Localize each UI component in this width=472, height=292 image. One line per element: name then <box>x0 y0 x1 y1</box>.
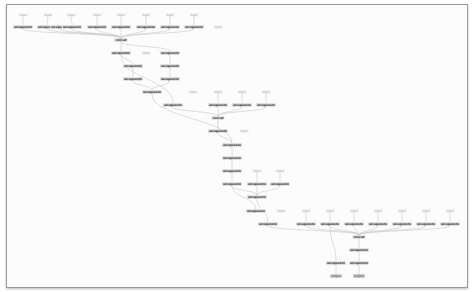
input-node[interactable]: input <box>421 209 431 213</box>
op-node[interactable]: unsqueeze <box>344 222 364 226</box>
op-node[interactable]: unsqueeze <box>184 25 204 29</box>
op-node[interactable]: unsqueeze <box>222 169 242 173</box>
op-node[interactable]: unsqueeze <box>160 64 180 68</box>
graph-edge <box>218 133 232 143</box>
op-node[interactable]: unsqueeze <box>222 143 242 147</box>
graph-edge <box>121 29 170 38</box>
op-node[interactable]: unsqueeze <box>258 222 278 226</box>
graph-edge <box>133 81 152 90</box>
graph-edge <box>121 42 170 51</box>
op-node[interactable]: unsqueeze <box>246 209 266 213</box>
op-node[interactable]: unsqueeze <box>142 90 162 94</box>
op-node[interactable]: unsqueeze <box>123 64 143 68</box>
input-node[interactable]: input <box>43 13 53 17</box>
op-node[interactable]: unsqueeze <box>270 182 290 186</box>
op-node[interactable]: concat <box>352 235 365 239</box>
op-node[interactable]: unsqueeze <box>111 51 131 55</box>
input-node[interactable]: input <box>141 51 151 55</box>
input-node[interactable]: input <box>373 209 383 213</box>
input-node[interactable]: input <box>141 13 151 17</box>
input-node[interactable]: input <box>445 209 455 213</box>
input-node[interactable]: input <box>188 90 198 94</box>
input-node[interactable]: input <box>92 13 102 17</box>
graph-edge <box>359 226 450 235</box>
input-node[interactable]: input <box>276 209 286 213</box>
graph-edge <box>71 17 72 25</box>
op-node[interactable]: unsqueeze <box>232 103 252 107</box>
op-node[interactable]: unsqueeze <box>208 129 228 133</box>
op-node[interactable]: concat <box>114 38 127 42</box>
output-node[interactable]: output <box>330 274 342 278</box>
graph-edge <box>152 81 170 90</box>
input-node[interactable]: input <box>237 90 247 94</box>
input-node[interactable]: input <box>275 169 285 173</box>
op-node[interactable]: unsqueeze <box>440 222 460 226</box>
op-node[interactable]: unsqueeze <box>296 222 316 226</box>
graph-edge <box>218 107 242 116</box>
op-node[interactable]: unsqueeze <box>256 103 276 107</box>
input-node[interactable]: input <box>325 209 335 213</box>
op-node[interactable]: unsqueeze <box>62 25 82 29</box>
input-node[interactable]: input <box>213 25 223 29</box>
graph-edge <box>218 107 266 116</box>
op-node[interactable]: unsqueeze <box>392 222 412 226</box>
op-node[interactable]: unsqueeze <box>247 182 267 186</box>
op-node[interactable]: unsqueeze <box>349 261 369 265</box>
op-node[interactable]: unsqueeze <box>326 261 346 265</box>
op-node[interactable]: unsqueeze <box>13 25 33 29</box>
input-node[interactable]: input <box>301 209 311 213</box>
input-node[interactable]: input <box>116 13 126 17</box>
op-node[interactable]: unsqueeze <box>111 25 131 29</box>
graph-edge <box>47 17 48 25</box>
input-node[interactable]: input <box>397 209 407 213</box>
op-node[interactable]: unsqueeze <box>136 25 156 29</box>
graph-edge <box>257 186 280 195</box>
input-node[interactable]: input <box>239 129 249 133</box>
input-node[interactable]: input <box>66 13 76 17</box>
op-node[interactable]: unsqueeze <box>163 103 183 107</box>
op-node[interactable]: unsqueeze <box>208 103 228 107</box>
op-node[interactable]: unsqueeze <box>368 222 388 226</box>
op-node[interactable]: unsqueeze <box>160 51 180 55</box>
op-node[interactable]: unsqueeze <box>123 77 143 81</box>
op-node[interactable]: unsqueeze <box>222 182 242 186</box>
input-node[interactable]: input <box>189 13 199 17</box>
op-node[interactable]: unsqueeze <box>320 222 340 226</box>
op-node[interactable]: unsqueeze <box>247 195 267 199</box>
op-node[interactable]: unsqueeze <box>160 25 180 29</box>
op-node[interactable]: unsqueeze <box>160 77 180 81</box>
op-node[interactable]: unsqueeze <box>87 25 107 29</box>
input-node[interactable]: input <box>213 90 223 94</box>
output-node[interactable]: output <box>353 274 365 278</box>
op-node[interactable]: unsqueeze <box>222 156 242 160</box>
op-node[interactable]: concat <box>211 116 224 120</box>
op-node[interactable]: unsqueeze <box>416 222 436 226</box>
op-node[interactable]: unsqueeze <box>349 248 369 252</box>
input-node[interactable]: input <box>261 90 271 94</box>
input-node[interactable]: input <box>18 13 28 17</box>
input-node[interactable]: input <box>252 169 262 173</box>
input-node[interactable]: input <box>165 13 175 17</box>
graph-edge <box>23 29 121 38</box>
input-node[interactable]: input <box>349 209 359 213</box>
graph-edge <box>232 186 257 195</box>
